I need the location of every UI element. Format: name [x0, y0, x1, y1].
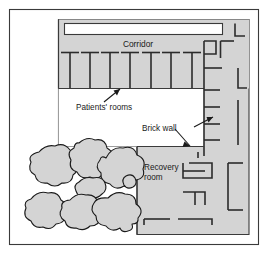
label-patients-rooms: Patients' rooms	[76, 103, 132, 112]
corridor-spine	[65, 24, 223, 35]
label-recovery-room-line1: Recovery	[144, 163, 179, 172]
label-corridor: Corridor	[123, 39, 153, 49]
tree-canopy	[123, 175, 136, 188]
floor-plan-figure: Corridor Patients' rooms Brick wall Reco…	[0, 0, 268, 254]
floor-plan-svg: Corridor Patients' rooms Brick wall Reco…	[0, 0, 268, 254]
label-brick-wall: Brick wall	[142, 124, 177, 133]
label-recovery-room-line2: room	[144, 173, 163, 182]
